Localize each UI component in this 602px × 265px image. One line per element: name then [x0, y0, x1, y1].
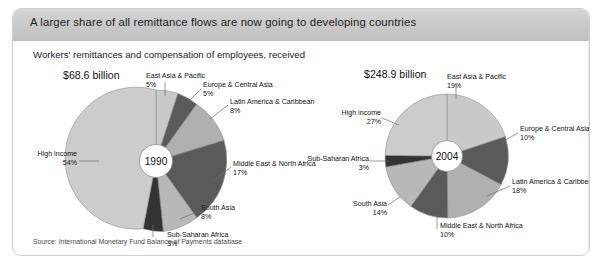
- label-text: Sub-Saharan Africa: [307, 155, 369, 163]
- pie-2004-center-year: 2004: [436, 151, 459, 162]
- pie-2004-svg: 2004: [13, 9, 590, 256]
- label-text: High income: [342, 109, 381, 117]
- label-pct: 14%: [373, 209, 387, 217]
- label-2004-mena: Middle East & North Africa 10%: [440, 222, 523, 239]
- label-text: Latin America & Caribbean: [512, 178, 590, 186]
- label-text: South Asia: [353, 200, 387, 208]
- label-2004-europe: Europe & Central Asia 10%: [520, 125, 590, 142]
- figure-panel: A larger share of all remittance flows a…: [12, 8, 590, 256]
- label-pct: 3%: [359, 164, 369, 172]
- label-2004-latin: Latin America & Caribbean 18%: [512, 178, 590, 195]
- label-2004-ssa: Sub-Saharan Africa 3%: [298, 155, 369, 172]
- figure-source: Source: International Monetary Fund Bala…: [33, 238, 242, 245]
- label-pct: 19%: [447, 82, 461, 90]
- label-pct: 10%: [440, 231, 454, 239]
- label-pct: 27%: [367, 118, 381, 126]
- label-pct: 18%: [512, 187, 526, 195]
- label-text: Europe & Central Asia: [520, 125, 590, 133]
- label-2004-south-asia: South Asia 14%: [324, 200, 387, 217]
- label-pct: 10%: [520, 134, 534, 142]
- label-text: East Asia & Pacific: [447, 73, 506, 81]
- label-2004-high-income: High income 27%: [311, 109, 381, 126]
- label-text: Middle East & North Africa: [440, 222, 523, 230]
- label-2004-east-asia: East Asia & Pacific 19%: [447, 73, 506, 90]
